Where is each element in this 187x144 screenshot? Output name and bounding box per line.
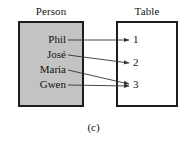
codomain-element-3: 3 [133,78,139,90]
codomain-element-2: 2 [133,56,139,68]
domain-element-phil: Phil [6,33,66,45]
domain-element-gwen: Gwen [6,78,66,90]
domain-element-maria: Maria [6,63,66,75]
domain-element-jose: José [6,48,66,60]
mapping-diagram-figure: Person Table Phil José Maria Gwen 1 2 3 … [0,0,187,144]
figure-caption: (c) [0,121,187,133]
codomain-set-box [116,21,178,107]
domain-set-header: Person [18,5,84,17]
codomain-element-1: 1 [133,33,139,45]
codomain-set-header: Table [116,5,178,17]
